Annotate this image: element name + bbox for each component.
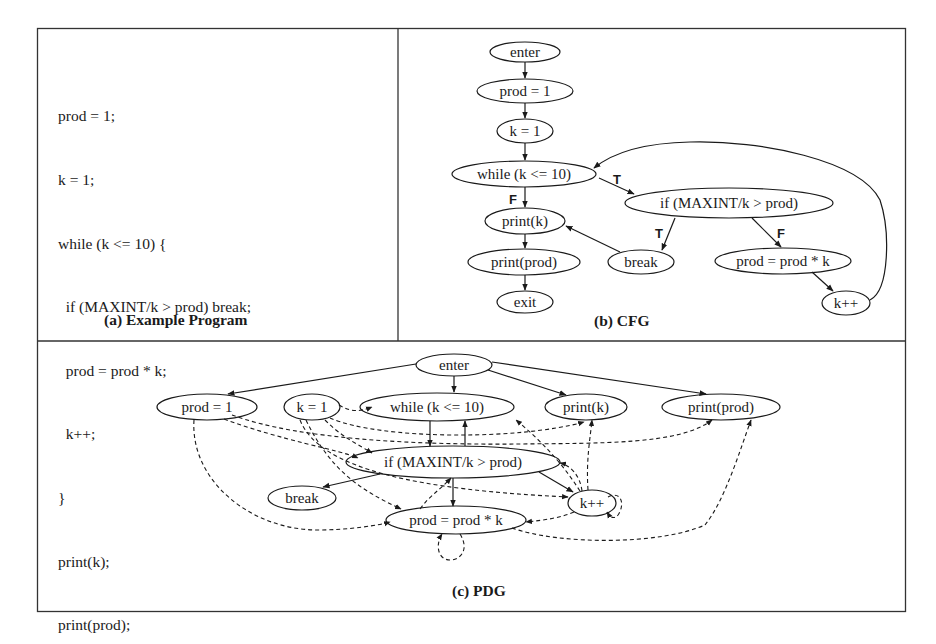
svg-text:print(prod): print(prod) (688, 399, 754, 416)
svg-text:print(k): print(k) (563, 399, 609, 416)
svg-text:k++: k++ (580, 495, 604, 511)
pdg-node-labels: enter prod = 1 k = 1 while (k <= 10) pri… (182, 357, 754, 528)
diagram-canvas: T F T F enter prod = 1 k = 1 while (k <=… (0, 0, 936, 644)
label-false: F (777, 226, 785, 241)
svg-text:prod = 1: prod = 1 (500, 83, 551, 99)
svg-text:if (MAXINT/k > prod): if (MAXINT/k > prod) (660, 195, 798, 212)
label-false: F (509, 192, 517, 207)
svg-text:print(prod): print(prod) (491, 254, 557, 271)
svg-text:enter: enter (439, 357, 469, 373)
label-true: T (613, 172, 621, 187)
svg-text:k = 1: k = 1 (297, 399, 328, 415)
svg-text:prod = prod * k: prod = prod * k (736, 253, 830, 269)
svg-text:print(k): print(k) (502, 213, 548, 230)
pdg-data-edges (194, 405, 751, 560)
svg-text:k = 1: k = 1 (510, 123, 541, 139)
svg-text:k++: k++ (834, 295, 858, 311)
svg-text:prod = 1: prod = 1 (182, 399, 233, 415)
svg-text:exit: exit (514, 294, 537, 310)
svg-text:while (k <= 10): while (k <= 10) (390, 399, 484, 416)
label-true: T (655, 226, 663, 241)
svg-text:break: break (285, 490, 319, 506)
svg-text:break: break (624, 254, 658, 270)
figure: prod = 1; k = 1; while (k <= 10) { if (M… (0, 0, 936, 644)
svg-text:if (MAXINT/k > prod): if (MAXINT/k > prod) (384, 454, 522, 471)
svg-text:prod = prod * k: prod = prod * k (409, 512, 503, 528)
cfg-node-labels: enter prod = 1 k = 1 while (k <= 10) if … (477, 44, 858, 311)
svg-text:while (k <= 10): while (k <= 10) (477, 166, 571, 183)
svg-text:enter: enter (510, 44, 540, 60)
